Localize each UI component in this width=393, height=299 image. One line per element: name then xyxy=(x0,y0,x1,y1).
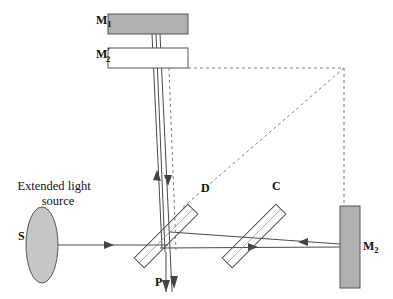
interferometer-figure: Extended light source S M1 M'2 M2 D C P xyxy=(0,0,393,299)
mirror-m2-prime-virtual xyxy=(108,48,188,68)
interferometer-svg: Extended light source S M1 M'2 M2 D C P xyxy=(0,0,393,299)
arrow-vertical-up xyxy=(153,170,161,181)
label-compensator-c: C xyxy=(272,179,281,193)
label-m1-sub: 1 xyxy=(107,19,111,29)
ray-paths xyxy=(58,34,340,292)
label-beamsplitter-d: D xyxy=(201,181,210,195)
label-c-base: C xyxy=(272,179,281,193)
label-m2-sub: 2 xyxy=(374,245,378,255)
label-m1-base: M xyxy=(96,13,107,27)
label-m2prime-sub: 2 xyxy=(106,54,110,64)
arrow-source-right xyxy=(104,241,114,249)
label-mirror-m2: M2 xyxy=(363,239,379,255)
label-d-base: D xyxy=(201,181,210,195)
label-observation-p: P xyxy=(155,275,162,289)
label-source-s-base: S xyxy=(18,229,25,243)
label-source-s: S xyxy=(18,229,25,243)
arrow-from-mirror2-left xyxy=(298,238,308,246)
arrow-vertical-down xyxy=(164,175,172,186)
source-caption-line2: source xyxy=(42,194,75,208)
ray-splitter-to-mirror2-upper xyxy=(170,232,340,244)
extended-light-source xyxy=(26,207,58,283)
mirror-m1 xyxy=(108,14,188,34)
label-m2-base: M xyxy=(363,239,374,253)
label-mirror-m2-prime: M'2 xyxy=(96,46,110,64)
compensator-center-line xyxy=(227,209,281,263)
arrow-output-down-left xyxy=(162,280,170,292)
mirror-m2 xyxy=(340,206,360,288)
source-caption-line1: Extended light xyxy=(17,179,91,193)
label-p-base: P xyxy=(155,275,162,289)
